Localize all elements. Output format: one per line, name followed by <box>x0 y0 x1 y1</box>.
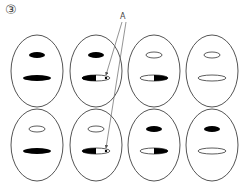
cell-r2-c3 <box>128 109 180 181</box>
upper-mark-open <box>29 126 45 132</box>
cell-r1-c3 <box>128 35 180 107</box>
upper-mark-open <box>146 52 162 58</box>
upper-mark-filled <box>146 126 162 132</box>
cell-r2-c4 <box>186 109 238 181</box>
arrow-to-r1-c2 <box>106 22 122 75</box>
oval-grid-diagram <box>0 0 246 185</box>
lower-mark-open <box>198 148 226 154</box>
upper-mark-filled <box>29 52 45 58</box>
upper-mark-filled <box>88 52 104 58</box>
upper-mark-filled <box>204 126 220 132</box>
cell-r1-c1 <box>11 35 63 107</box>
lower-mark-filled <box>23 75 51 81</box>
cell-r1-c4 <box>186 35 238 107</box>
dot-marker <box>105 150 107 152</box>
upper-mark-open <box>204 52 220 58</box>
dot-marker <box>105 77 107 79</box>
cell-r2-c2 <box>70 109 122 181</box>
lower-mark-open <box>198 75 226 81</box>
cell-r2-c1 <box>11 109 63 181</box>
upper-mark-open <box>88 126 104 132</box>
lower-mark-filled <box>23 148 51 154</box>
